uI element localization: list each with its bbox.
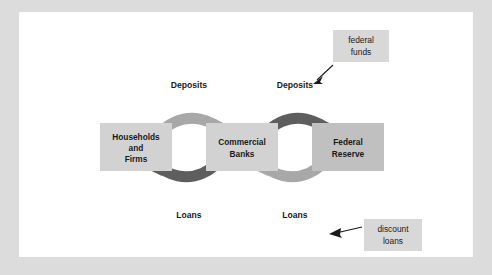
flow-label-deposits-right: Deposits (277, 80, 314, 90)
callout-federal-funds-arrow-line (317, 65, 333, 80)
node-households-and-firms-line-1: Households (112, 132, 160, 142)
money-creation-flow-diagram: Households and Firms Commercial Banks Fe… (20, 13, 472, 256)
callout-federal-funds-line-2: funds (351, 47, 372, 57)
node-households-and-firms: Households and Firms (100, 123, 172, 171)
callout-discount-loans: discount loans (329, 219, 422, 251)
figure-panel: Households and Firms Commercial Banks Fe… (20, 13, 472, 256)
callout-federal-funds-arrow-icon (313, 65, 333, 84)
node-federal-reserve-box (312, 123, 384, 171)
callout-discount-loans-arrow-icon (329, 227, 362, 238)
flow-label-deposits-left: Deposits (171, 80, 208, 90)
node-federal-reserve-line-1: Federal (333, 137, 363, 147)
node-federal-reserve-line-2: Reserve (332, 149, 365, 159)
node-commercial-banks-box (206, 123, 278, 171)
node-households-and-firms-line-2: and (129, 143, 144, 153)
node-commercial-banks-line-2: Banks (230, 149, 255, 159)
flow-label-loans-right: Loans (282, 210, 308, 220)
callout-discount-loans-line-1: discount (377, 224, 409, 234)
callout-discount-loans-arrow-head (329, 228, 342, 238)
callout-discount-loans-line-2: loans (383, 236, 403, 246)
node-federal-reserve: Federal Reserve (312, 123, 384, 171)
node-households-and-firms-line-3: Firms (125, 154, 148, 164)
figure-root: Households and Firms Commercial Banks Fe… (0, 0, 492, 275)
node-commercial-banks-line-1: Commercial (218, 137, 266, 147)
flow-label-loans-left: Loans (176, 210, 202, 220)
callout-federal-funds-arrow-head (313, 76, 323, 84)
node-commercial-banks: Commercial Banks (206, 123, 278, 171)
callout-federal-funds: federal funds (313, 30, 389, 84)
callout-federal-funds-line-1: federal (348, 35, 374, 45)
